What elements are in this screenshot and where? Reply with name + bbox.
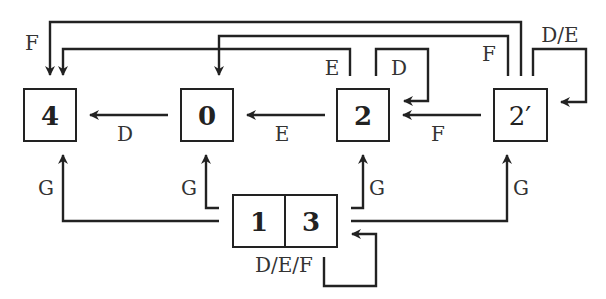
label-d-0-4: D	[117, 122, 133, 146]
label-d-loop-2: D	[391, 56, 407, 80]
node-4-label: 4	[41, 101, 59, 131]
node-0: 0	[181, 89, 233, 141]
label-g-2: G	[369, 176, 385, 200]
label-f-2p-2: F	[431, 122, 445, 146]
label-g-2p: G	[513, 176, 529, 200]
label-e-2-0: E	[275, 122, 290, 146]
node-1-label: 1	[250, 207, 268, 237]
node-0-label: 0	[198, 101, 216, 131]
node-3-label: 3	[302, 207, 320, 237]
label-g-0: G	[181, 176, 197, 200]
node-2-prime-label: 2′	[509, 101, 532, 131]
node-2-prime: 2′	[494, 89, 547, 141]
edge-2-to-4	[63, 49, 350, 76]
node-4: 4	[24, 89, 76, 141]
label-def-loop-13: D/E/F	[255, 253, 313, 277]
label-f-top-2p: F	[482, 42, 496, 66]
label-f-top-left: F	[25, 31, 39, 55]
node-2: 2	[337, 89, 389, 141]
edge-13-to-2	[351, 155, 363, 208]
label-e-2-top: E	[325, 56, 340, 80]
state-diagram: 4 0 2 2′ 1 3 F D E F E D F D/E G G G G D…	[0, 0, 606, 299]
edge-13-to-0	[206, 155, 219, 208]
node-1-3: 1 3	[233, 195, 337, 247]
edge-2p-to-0	[219, 36, 508, 76]
node-2-label: 2	[354, 101, 372, 131]
label-g-4: G	[38, 176, 54, 200]
label-de-loop-2p: D/E	[541, 23, 578, 47]
